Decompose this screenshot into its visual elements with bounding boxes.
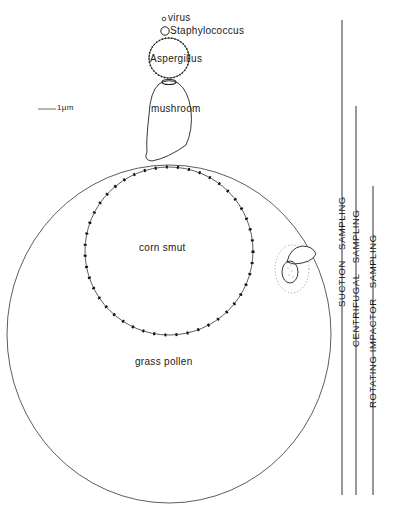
- aspergillus-label: Aspergillus: [150, 54, 202, 64]
- virus-shape: [162, 17, 166, 21]
- suction-sampling-label: SUCTIONSAMPLING: [337, 196, 347, 307]
- centrifugal-sampling-word: SAMPLING: [350, 209, 361, 263]
- corn-smut-label: corn smut: [139, 243, 186, 253]
- particle-size-diagram: [0, 0, 393, 517]
- scale-bar-label: 1µm: [57, 104, 74, 112]
- mushroom-label: mushroom: [151, 104, 201, 114]
- grass-pollen-shape: [7, 165, 331, 503]
- suction-word: SUCTION: [336, 260, 347, 307]
- rotating-impactor-sampling-word: SAMPLING: [367, 234, 378, 288]
- rotating-impactor-sampling-label: ROTATING IMPACTORSAMPLING: [368, 234, 378, 408]
- staphylococcus-shape: [161, 27, 169, 35]
- mushroom-shape: [146, 80, 192, 162]
- grass-pollen-label: grass pollen: [135, 357, 193, 367]
- centrifugal-sampling-label: CENTRIFUGALSAMPLING: [351, 209, 361, 347]
- pollen-pore-shape: [275, 245, 316, 293]
- virus-label: virus: [168, 13, 191, 23]
- rotating-impactor-word: ROTATING IMPACTOR: [367, 298, 378, 408]
- staphylococcus-label: Staphylococcus: [170, 26, 244, 36]
- suction-sampling-word: SAMPLING: [336, 196, 347, 250]
- centrifugal-word: CENTRIFUGAL: [350, 273, 361, 347]
